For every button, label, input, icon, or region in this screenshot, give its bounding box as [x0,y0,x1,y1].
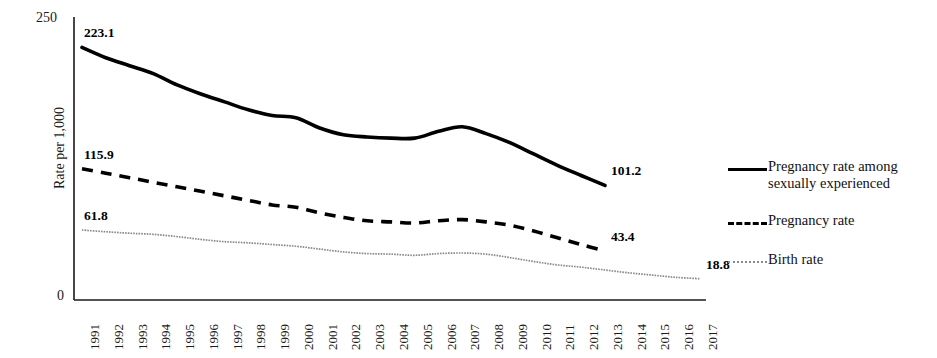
data-point-label: 101.2 [611,163,641,179]
data-point-label: 223.1 [84,25,114,41]
legend-marker-solid-line-icon [726,161,768,177]
series-layer [82,47,700,278]
legend-label: Birth rate [768,251,823,268]
legend-item-pregnancy-rate: Pregnancy rate [726,212,936,231]
legend-item-pregnancy-rate-sexually-experienced: Pregnancy rate among sexually experience… [726,158,936,192]
legend-item-birth-rate: Birth rate [726,251,936,270]
data-point-label: 43.4 [611,229,635,245]
legend-label: Pregnancy rate [768,212,855,229]
data-point-label: 115.9 [84,147,114,163]
series-line [82,230,700,279]
chart-legend: Pregnancy rate among sexually experience… [726,158,936,290]
legend-marker-dashed-line-icon [726,215,768,231]
legend-marker-thin-line-icon [726,254,768,270]
series-line [82,47,605,185]
data-point-label: 61.8 [84,208,108,224]
series-line [82,169,605,251]
legend-label: Pregnancy rate among sexually experience… [768,158,936,192]
chart-figure: 250 0 Rate per 1,000 1991199219931994199… [0,0,937,358]
